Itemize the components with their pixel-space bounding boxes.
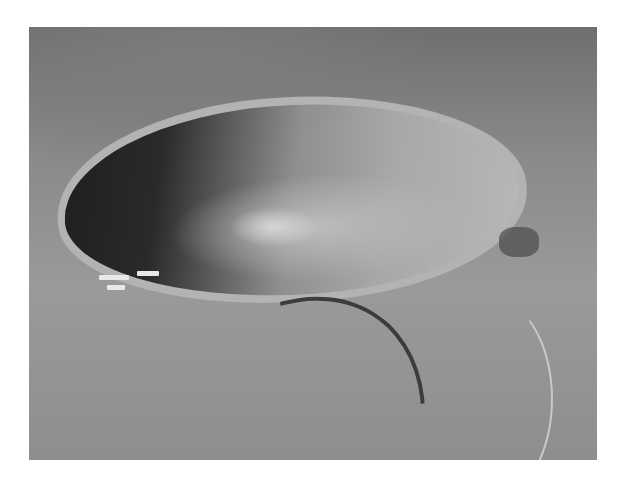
dirt-trail <box>429 297 553 460</box>
crater-photograph <box>29 27 597 460</box>
visitor-building <box>99 275 129 280</box>
visitor-building <box>137 271 159 276</box>
crater-floor <box>229 207 319 247</box>
rock-outcrop <box>499 227 539 257</box>
visitor-building <box>107 285 125 290</box>
